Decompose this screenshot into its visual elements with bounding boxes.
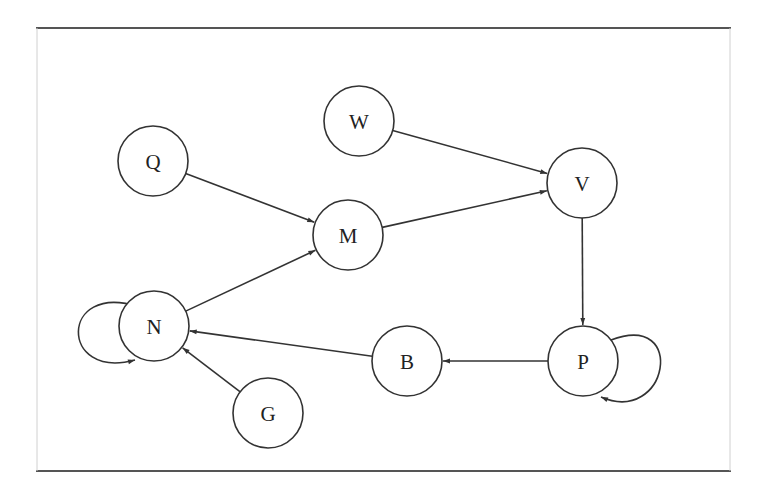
- node-q: Q: [118, 126, 188, 196]
- edge-w-to-v: [393, 130, 548, 173]
- node-label: G: [260, 402, 275, 426]
- edge-n-to-m: [186, 250, 316, 311]
- node-p: P: [548, 326, 618, 396]
- node-w: W: [324, 86, 394, 156]
- edge-v-to-p: [582, 218, 583, 325]
- node-label: W: [349, 110, 369, 134]
- edge-m-to-v: [382, 191, 547, 228]
- node-label: Q: [145, 150, 160, 174]
- node-g: G: [233, 378, 303, 448]
- node-b: B: [372, 326, 442, 396]
- node-label: P: [577, 350, 589, 374]
- graph-diagram: WQVMNBPG: [0, 0, 766, 496]
- edge-b-to-n: [190, 331, 373, 356]
- diagram-frame: [36, 28, 731, 471]
- edge-q-to-m: [186, 173, 315, 222]
- edge-g-to-n: [183, 348, 241, 392]
- node-label: V: [574, 172, 589, 196]
- nodes-layer: WQVMNBPG: [118, 86, 618, 448]
- node-n: N: [119, 291, 189, 361]
- node-v: V: [547, 148, 617, 218]
- node-m: M: [313, 200, 383, 270]
- node-label: M: [339, 224, 358, 248]
- node-label: B: [400, 350, 414, 374]
- node-label: N: [146, 315, 161, 339]
